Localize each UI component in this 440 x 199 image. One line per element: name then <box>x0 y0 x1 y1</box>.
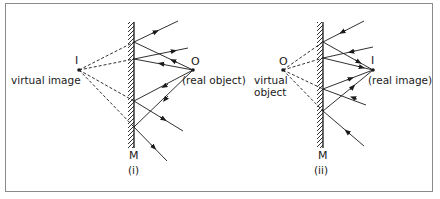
virtual-image-point-icon <box>77 68 81 72</box>
real-object-point-icon <box>191 68 195 72</box>
mirror-label-i: M <box>129 150 139 162</box>
plane-mirror-icon <box>128 22 134 148</box>
real-object-label: (real object) <box>182 74 246 86</box>
mirror-label-ii: M <box>318 150 328 162</box>
panel-i <box>77 21 195 161</box>
object-point-label-ii: O <box>279 56 288 68</box>
virtual-image-label: virtual image <box>11 74 81 86</box>
virtual-object-label-line2: object <box>254 86 286 98</box>
caption-ii: (ii) <box>314 164 328 176</box>
plane-mirror-icon <box>317 22 323 148</box>
caption-i: (i) <box>128 164 139 176</box>
virtual-object-point-icon <box>281 68 285 72</box>
image-point-label-i: I <box>75 55 78 67</box>
real-image-label: (real image) <box>368 74 432 86</box>
panel-ii <box>281 21 375 148</box>
image-point-label-ii: I <box>371 55 374 67</box>
ray-diagram <box>0 0 440 199</box>
virtual-object-label-line1: virtual <box>254 74 288 86</box>
object-point-label-i: O <box>191 56 200 68</box>
real-image-point-icon <box>371 68 375 72</box>
